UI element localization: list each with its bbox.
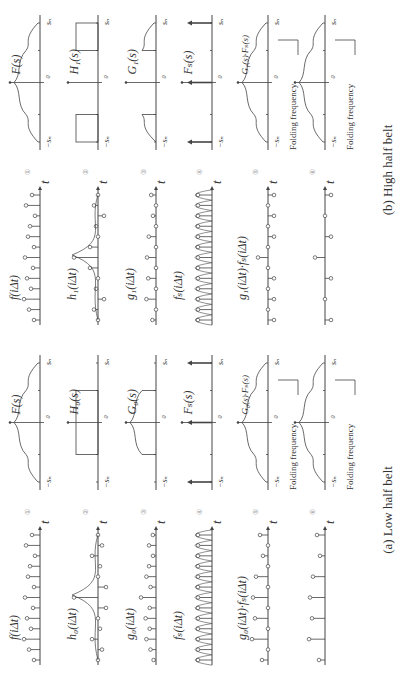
sample-marker bbox=[266, 564, 270, 568]
time-axis-label: t bbox=[37, 180, 52, 184]
axis-arrow-icon bbox=[154, 186, 158, 190]
sample-marker bbox=[22, 637, 26, 641]
sample-marker bbox=[28, 224, 32, 228]
sample-marker bbox=[147, 235, 151, 239]
folding-frequency-pointer bbox=[335, 380, 355, 395]
neg-nyquist-label: −sₙ bbox=[44, 136, 53, 148]
sample-marker bbox=[32, 245, 36, 249]
sample-marker bbox=[30, 533, 34, 537]
origin-label: 0 bbox=[217, 76, 223, 79]
axis-arrow-icon bbox=[323, 186, 327, 190]
impulse-arrow-icon bbox=[187, 21, 192, 26]
figure-canvas: tf(iΔt)①−sₙ0sₙF(s)th₀(iΔt)②−sₙ0sₙH₀(s)tg… bbox=[0, 0, 410, 680]
origin-label: 0 bbox=[45, 76, 51, 79]
sample-marker bbox=[329, 193, 333, 197]
pos-nyquist-label: sₙ bbox=[329, 359, 338, 365]
sample-marker bbox=[98, 627, 102, 631]
highpass-filter-window bbox=[76, 115, 98, 143]
freq-signal-label: G₀(s) bbox=[125, 389, 139, 415]
sample-marker bbox=[26, 235, 30, 239]
sample-marker bbox=[196, 318, 200, 322]
origin-label: 0 bbox=[161, 416, 167, 419]
origin-label: 0 bbox=[330, 416, 336, 419]
sample-marker bbox=[196, 575, 200, 579]
row-number: ① bbox=[24, 509, 32, 515]
sample-marker bbox=[90, 554, 94, 558]
sample-marker bbox=[272, 235, 276, 239]
sample-marker bbox=[29, 627, 33, 631]
sample-marker bbox=[272, 277, 276, 281]
row-number: ③ bbox=[140, 509, 148, 515]
freq-signal-label: F(s) bbox=[9, 55, 23, 76]
folding-frequency-label: Folding frequency bbox=[288, 83, 298, 150]
sample-marker bbox=[31, 266, 35, 270]
pos-nyquist-label: sₙ bbox=[44, 359, 53, 365]
panel-caption: (b) High half belt bbox=[380, 124, 395, 215]
sample-marker bbox=[258, 533, 262, 537]
sample-marker bbox=[196, 617, 200, 621]
neg-nyquist-label: −sₙ bbox=[102, 136, 111, 148]
time-signal-label: fₛ(iΔt) bbox=[171, 271, 185, 300]
sample-marker bbox=[151, 318, 155, 322]
axis-arrow-icon bbox=[67, 81, 70, 84]
highpass-filter-window bbox=[76, 23, 98, 51]
axis-arrow-icon bbox=[67, 421, 70, 424]
origin-label: 0 bbox=[103, 76, 109, 79]
sample-marker bbox=[94, 287, 98, 291]
sample-marker bbox=[98, 564, 102, 568]
folding-frequency-label: Folding frequency bbox=[345, 423, 355, 490]
sample-marker bbox=[30, 193, 34, 197]
sample-marker bbox=[196, 564, 200, 568]
sample-marker bbox=[266, 245, 270, 249]
sample-marker bbox=[145, 637, 149, 641]
sample-marker bbox=[96, 277, 100, 281]
impulse-arrow-icon bbox=[187, 420, 192, 425]
sample-marker bbox=[266, 585, 270, 589]
axis-arrow-icon bbox=[210, 526, 214, 530]
sample-marker bbox=[310, 617, 314, 621]
sample-marker bbox=[266, 648, 270, 652]
axis-arrow-icon bbox=[181, 81, 184, 84]
time-signal-label: fₛ(iΔt) bbox=[171, 611, 185, 640]
sample-marker bbox=[196, 287, 200, 291]
sample-marker bbox=[318, 554, 322, 558]
freq-signal-label: G₀(s)·Fₛ(s) bbox=[240, 375, 250, 414]
time-axis-label: t bbox=[37, 520, 52, 524]
axis-arrow-icon bbox=[323, 526, 327, 530]
axis-arrow-icon bbox=[181, 421, 184, 424]
neg-nyquist-label: −sₙ bbox=[216, 476, 225, 488]
sample-marker bbox=[149, 193, 153, 197]
axis-arrow-icon bbox=[237, 81, 240, 84]
neg-nyquist-label: −sₙ bbox=[160, 136, 169, 148]
origin-label: 0 bbox=[103, 416, 109, 419]
freq-signal-label: Fₛ(s) bbox=[181, 50, 195, 75]
sample-marker bbox=[102, 214, 106, 218]
time-axis-label: t bbox=[322, 180, 337, 184]
sample-marker bbox=[196, 627, 200, 631]
sample-marker bbox=[266, 627, 270, 631]
sample-marker bbox=[32, 318, 36, 322]
sample-marker bbox=[88, 266, 92, 270]
sample-marker bbox=[196, 297, 200, 301]
time-signal-label: g₀(iΔt) bbox=[123, 608, 137, 640]
sample-marker bbox=[24, 544, 28, 548]
sample-marker bbox=[96, 575, 100, 579]
row-6 bbox=[294, 15, 355, 325]
sample-marker bbox=[32, 658, 36, 662]
impulse-arrow-icon bbox=[187, 361, 192, 366]
time-axis-label: t bbox=[322, 520, 337, 524]
pos-nyquist-label: sₙ bbox=[102, 359, 111, 365]
sample-marker bbox=[311, 575, 315, 579]
sample-marker bbox=[100, 648, 104, 652]
sample-marker bbox=[196, 277, 200, 281]
sample-marker bbox=[272, 214, 276, 218]
sample-marker bbox=[266, 606, 270, 610]
sample-marker bbox=[196, 256, 200, 260]
sample-marker bbox=[323, 297, 327, 301]
sample-marker bbox=[196, 544, 200, 548]
time-axis-label: t bbox=[265, 520, 280, 524]
sample-marker bbox=[147, 564, 151, 568]
folding-frequency-pointer bbox=[278, 380, 298, 395]
axis-arrow-icon bbox=[154, 526, 158, 530]
row-number: ③ bbox=[140, 169, 148, 175]
